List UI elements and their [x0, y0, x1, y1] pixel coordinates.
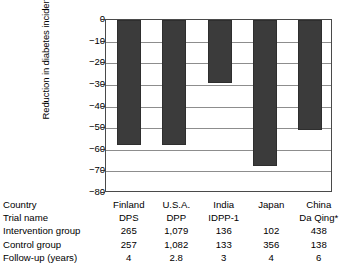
table-cell: 6: [295, 252, 343, 263]
y-axis-title: Reduction in diabetes incidence (%): [40, 0, 51, 131]
table-row: Trial name DPS DPP IDPP-1 Da Qing*: [2, 211, 344, 224]
gridline: [106, 171, 331, 172]
table-cell: Da Qing*: [295, 212, 343, 223]
gridline: [106, 150, 331, 151]
table-row: Follow-up (years) 4 2.8 3 4 6: [2, 251, 344, 264]
plot-area: [105, 19, 332, 192]
row-label-trial-name: Trial name: [2, 212, 105, 223]
table-cell: 138: [295, 239, 343, 250]
table-cell: 4: [105, 252, 153, 263]
y-tick-mark: [101, 192, 105, 193]
table-cell: 356: [248, 239, 296, 250]
y-axis: 0 −10 −20 −30 −40 −50 −60 −70 −80: [70, 19, 105, 192]
table-cell: U.S.A.: [153, 199, 201, 210]
row-label-control-group: Control group: [2, 239, 105, 250]
table-cell: IDPP-1: [200, 212, 248, 223]
figure-container: Reduction in diabetes incidence (%) 0 −1…: [0, 0, 346, 266]
table-cell: 2.8: [153, 252, 201, 263]
bar-u-s-a-: [162, 20, 186, 145]
table-cell: DPP: [153, 212, 201, 223]
bar-india: [208, 20, 232, 83]
table-cell: 3: [200, 252, 248, 263]
table-row: Intervention group 265 1,079 136 102 438: [2, 224, 344, 237]
bar-china: [298, 20, 322, 130]
table-cell: 438: [295, 225, 343, 236]
table-cell: 1,079: [153, 225, 201, 236]
table-cell: 1,082: [153, 239, 201, 250]
table-cell: 265: [105, 225, 153, 236]
table-cell: 133: [200, 239, 248, 250]
table-cell: India: [200, 199, 248, 210]
table-cell: 136: [200, 225, 248, 236]
bar-japan: [253, 20, 277, 166]
data-table: Country Finland U.S.A. India Japan China…: [2, 198, 344, 264]
table-cell: 257: [105, 239, 153, 250]
table-cell: Japan: [248, 199, 296, 210]
table-cell: 102: [248, 225, 296, 236]
table-row: Country Finland U.S.A. India Japan China: [2, 198, 344, 211]
table-cell: China: [295, 199, 343, 210]
table-cell: 4: [248, 252, 296, 263]
row-label-country: Country: [2, 199, 105, 210]
table-row: Control group 257 1,082 133 356 138: [2, 238, 344, 251]
table-cell: DPS: [105, 212, 153, 223]
row-label-intervention-group: Intervention group: [2, 225, 105, 236]
bar-finland: [117, 20, 141, 145]
table-cell: Finland: [105, 199, 153, 210]
row-label-follow-up: Follow-up (years): [2, 252, 105, 263]
